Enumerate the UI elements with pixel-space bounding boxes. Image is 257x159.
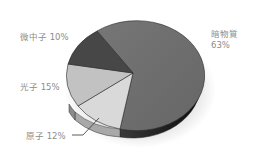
pie-chart: 暗物質 63% 微中子 10% 光子 15% 原子 12% bbox=[0, 0, 257, 159]
label-dark-matter-name: 暗物質 bbox=[211, 29, 238, 39]
label-photon: 光子 15% bbox=[20, 82, 60, 92]
label-atom: 原子 12% bbox=[26, 131, 66, 141]
label-neutrino: 微中子 10% bbox=[20, 32, 69, 42]
label-dark-matter-pct: 63% bbox=[211, 40, 230, 50]
